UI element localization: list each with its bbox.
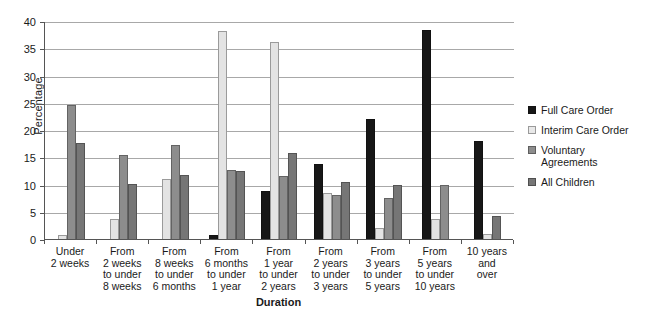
bar	[332, 195, 341, 239]
bar-group	[201, 21, 253, 239]
bar	[393, 185, 402, 240]
legend-swatch-icon	[528, 106, 536, 114]
y-tick-label: 30	[0, 71, 36, 83]
bar-group	[462, 21, 514, 239]
x-category-label: From 3 years to under 5 years	[353, 246, 413, 292]
bar	[483, 234, 492, 239]
bar	[492, 216, 501, 239]
x-tick-mark	[305, 240, 306, 244]
y-tick-mark	[40, 158, 44, 159]
bar	[128, 184, 137, 239]
x-category-label: From 2 weeks to under 8 weeks	[92, 246, 152, 292]
y-tick-mark	[40, 186, 44, 187]
bar	[227, 170, 236, 239]
bar	[110, 219, 119, 239]
bar-chart: Percentage Duration Full Care OrderInter…	[0, 0, 669, 317]
legend-item[interactable]: All Children	[528, 176, 669, 188]
bar	[288, 153, 297, 239]
bar	[474, 141, 483, 239]
x-tick-mark	[409, 240, 410, 244]
bar	[67, 105, 76, 239]
bar	[58, 235, 67, 239]
x-tick-mark	[357, 240, 358, 244]
bar-group	[45, 21, 97, 239]
y-tick-mark	[40, 22, 44, 23]
x-category-label: From 6 months to under 1 year	[196, 246, 256, 292]
bar	[314, 164, 323, 239]
x-tick-mark	[96, 240, 97, 244]
legend-swatch-icon	[528, 126, 536, 134]
bar	[375, 228, 384, 239]
y-tick-mark	[40, 77, 44, 78]
bar	[180, 175, 189, 239]
legend-item[interactable]: Voluntary Agreements	[528, 144, 669, 168]
legend-swatch-icon	[528, 178, 536, 186]
legend-item[interactable]: Full Care Order	[528, 104, 669, 116]
y-tick-mark	[40, 213, 44, 214]
x-axis-title: Duration	[44, 296, 513, 308]
bar-group	[253, 21, 305, 239]
x-tick-mark	[252, 240, 253, 244]
bar	[171, 145, 180, 239]
x-category-label: 10 years and over	[457, 246, 517, 281]
bar	[323, 193, 332, 239]
bar	[218, 31, 227, 239]
bar	[162, 179, 171, 239]
legend-item[interactable]: Interim Care Order	[528, 124, 669, 136]
x-tick-mark	[461, 240, 462, 244]
legend-label: Voluntary Agreements	[541, 144, 598, 168]
bar	[440, 185, 449, 240]
x-tick-mark	[148, 240, 149, 244]
y-tick-label: 10	[0, 180, 36, 192]
bar	[279, 176, 288, 239]
bar	[431, 219, 440, 239]
bar	[76, 143, 85, 239]
y-tick-label: 5	[0, 207, 36, 219]
bar	[261, 191, 270, 239]
bar-group	[306, 21, 358, 239]
legend-label: Interim Care Order	[541, 124, 629, 136]
y-tick-label: 20	[0, 125, 36, 137]
y-tick-label: 15	[0, 152, 36, 164]
y-tick-mark	[40, 104, 44, 105]
y-tick-mark	[40, 131, 44, 132]
x-category-label: Under 2 weeks	[40, 246, 100, 269]
y-tick-mark	[40, 49, 44, 50]
x-category-label: From 2 years to under 3 years	[301, 246, 361, 292]
bar-group	[97, 21, 149, 239]
legend-swatch-icon	[528, 146, 536, 154]
x-category-label: From 5 years to under 10 years	[405, 246, 465, 292]
y-tick-label: 25	[0, 98, 36, 110]
bar	[384, 198, 393, 239]
x-tick-mark	[44, 240, 45, 244]
y-tick-label: 0	[0, 234, 36, 246]
bar	[119, 155, 128, 239]
plot-area	[44, 22, 513, 240]
bar	[341, 182, 350, 239]
legend-label: Full Care Order	[541, 104, 613, 116]
bar-group	[410, 21, 462, 239]
bar	[366, 119, 375, 239]
legend: Full Care OrderInterim Care OrderVolunta…	[528, 104, 669, 196]
bar	[422, 30, 431, 239]
x-tick-mark	[513, 240, 514, 244]
x-tick-mark	[200, 240, 201, 244]
x-category-label: From 1 year to under 2 years	[248, 246, 308, 292]
y-tick-label: 40	[0, 16, 36, 28]
bar	[209, 235, 218, 239]
bar	[236, 171, 245, 239]
bar-group	[149, 21, 201, 239]
legend-label: All Children	[541, 176, 595, 188]
x-category-label: From 8 weeks to under 6 months	[144, 246, 204, 292]
bar-group	[358, 21, 410, 239]
bar	[270, 42, 279, 239]
y-tick-label: 35	[0, 43, 36, 55]
